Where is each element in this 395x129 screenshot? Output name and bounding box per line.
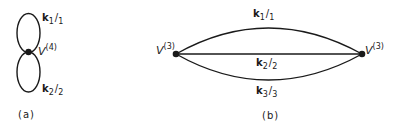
momentum-index: 2: [49, 88, 54, 97]
panel-b-graph: [173, 28, 366, 80]
vertex-symbol: V: [156, 44, 164, 57]
label-k1-loop-a: k1/1: [42, 13, 63, 23]
slash-index: 2: [58, 88, 63, 97]
panel-a-graph: [17, 14, 40, 93]
momentum-index: 1: [49, 17, 54, 26]
slash-index: 1: [269, 13, 274, 22]
label-k3-propagator: k3/3: [256, 86, 277, 96]
slash-index: 2: [272, 62, 277, 71]
loop-lower: [17, 52, 40, 92]
momentum-symbol: k: [256, 57, 263, 68]
momentum-index: 1: [260, 13, 265, 22]
caption-b: (b): [262, 111, 279, 121]
label-k1-propagator: k1/1: [253, 9, 274, 19]
propagator-upper-arc: [176, 28, 362, 54]
momentum-index: 3: [263, 90, 268, 99]
vertex-4-dot: [25, 49, 31, 55]
vertex-order: (3): [164, 42, 175, 51]
caption-a: (a): [18, 110, 35, 120]
vertex-symbol: V: [365, 44, 373, 57]
momentum-symbol: k: [42, 12, 49, 23]
vertex-symbol: V: [38, 45, 46, 58]
momentum-symbol: k: [256, 85, 263, 96]
momentum-symbol: k: [253, 8, 260, 19]
momentum-symbol: k: [42, 83, 49, 94]
vertex-order: (3): [373, 42, 384, 51]
slash-index: 3: [272, 90, 277, 99]
label-vertex-4: V(4): [38, 46, 57, 57]
label-k2-loop-a: k2/2: [42, 84, 63, 94]
label-k2-propagator: k2/2: [256, 58, 277, 68]
loop-upper: [17, 14, 40, 53]
label-right-vertex-3: V(3): [365, 45, 384, 56]
label-left-vertex-3: V(3): [156, 45, 175, 56]
momentum-index: 2: [263, 62, 268, 71]
vertex-order: (4): [46, 43, 57, 52]
slash-index: 1: [58, 17, 63, 26]
